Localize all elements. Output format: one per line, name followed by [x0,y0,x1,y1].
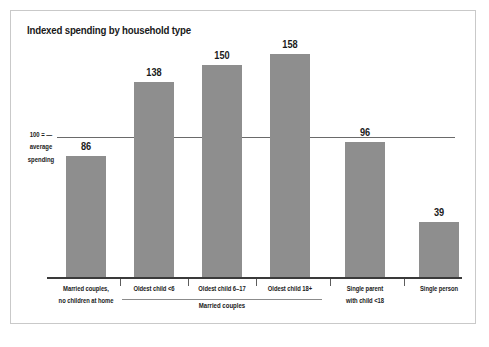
category-label-single-parent: Single parent with child <18 [323,283,407,306]
figure-canvas: Indexed spending by household type 100 =… [0,0,489,347]
axis-tick [120,279,121,286]
y-axis-annotation-line3: spending [17,154,65,166]
bar-value-label: 158 [272,39,309,50]
y-axis-annotation-line1: 100 = — [17,129,65,141]
bar-oldest-child-18-plus [270,54,310,277]
group-bracket-label: Married couples [129,302,315,309]
axis-tick [404,279,405,286]
x-axis-baseline [47,277,462,279]
bar-single-person [419,222,459,277]
y-axis-annotation-line2: average [17,141,65,153]
bar-oldest-child-6-17 [202,65,242,277]
bar-value-label: 138 [136,67,173,78]
reference-line-left [57,137,455,138]
axis-tick [188,279,189,286]
bar-oldest-child-under-6 [134,82,174,277]
category-label-single-person: Single person [397,283,481,295]
bar-value-label: 96 [347,127,384,138]
category-label-line1: Single parent [323,283,407,295]
category-label-line2: no children at home [40,295,133,307]
axis-tick [330,279,331,286]
group-bracket-line [122,299,322,300]
plot-area: 100 = — average spending 86 138 150 158 … [0,0,489,347]
y-axis-annotation: 100 = — average spending [17,129,65,166]
bar-value-label: 39 [421,207,458,218]
bar-value-label: 150 [204,50,241,61]
category-label-line1: Single person [397,283,481,295]
bar-single-parent [345,142,385,277]
category-label-line1: Oldest child 18+ [248,283,332,295]
bar-married-no-children [66,156,106,277]
category-label-line2: with child <18 [323,295,407,307]
bar-value-label: 86 [68,141,105,152]
axis-tick [256,279,257,286]
category-label-oldest-child-18-plus: Oldest child 18+ [248,283,332,295]
